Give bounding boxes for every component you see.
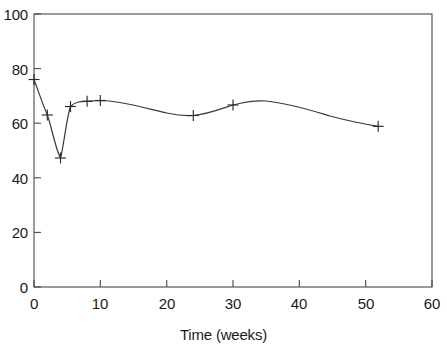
x-axis-title: Time (weeks) xyxy=(0,326,447,343)
y-tick-label-0: 0 xyxy=(0,279,28,296)
y-tick-label-40: 40 xyxy=(0,170,28,187)
x-tick-label-30: 30 xyxy=(213,295,253,312)
x-axis-ticks xyxy=(34,280,432,287)
x-tick-label-20: 20 xyxy=(147,295,187,312)
data-point-markers xyxy=(29,74,384,164)
x-tick-label-0: 0 xyxy=(14,295,54,312)
y-tick-label-100: 100 xyxy=(0,6,28,23)
plot-frame xyxy=(34,14,432,287)
x-tick-label-50: 50 xyxy=(346,295,386,312)
y-tick-label-20: 20 xyxy=(0,224,28,241)
y-axis-ticks xyxy=(34,14,41,287)
x-tick-label-40: 40 xyxy=(279,295,319,312)
data-line-series-1 xyxy=(34,80,378,159)
y-tick-label-80: 80 xyxy=(0,61,28,78)
x-tick-label-60: 60 xyxy=(412,295,447,312)
y-tick-label-60: 60 xyxy=(0,115,28,132)
chart-figure: · · · · xyxy=(0,0,447,349)
x-tick-label-10: 10 xyxy=(80,295,120,312)
